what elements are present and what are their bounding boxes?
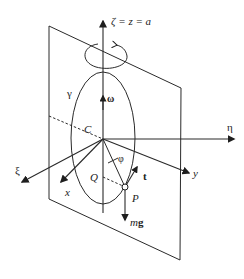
weight-g-label: g [138, 216, 144, 228]
point-q-label: Q [90, 171, 98, 183]
angle-phi-label: φ [118, 153, 124, 164]
bead-on-rotating-ellipse-diagram: ζ = z = a η ξ x y γ ω C φ Q P t mg [0, 0, 244, 279]
rotation-arrow-icon [85, 44, 127, 68]
rotating-plane [49, 26, 181, 260]
weight-label: mg [130, 216, 144, 228]
xi-axis-label: ξ [15, 164, 20, 177]
eta-axis-label: η [227, 121, 233, 133]
weight-m-label: m [130, 216, 138, 228]
x-axis-label: x [64, 186, 70, 198]
omega-label: ω [107, 93, 114, 104]
point-p-label: P [131, 192, 139, 204]
point-circle-icon [122, 184, 128, 190]
y-axis-label: y [192, 167, 198, 179]
gamma-label: γ [66, 87, 72, 99]
plane-trace-dashed [49, 116, 103, 139]
angle-phi-tick [108, 158, 118, 163]
center-c-label: C [84, 123, 92, 135]
tangent-label: t [143, 170, 147, 182]
zeta-axis-label: ζ = z = a [111, 15, 152, 28]
qp-dashed [103, 177, 123, 186]
